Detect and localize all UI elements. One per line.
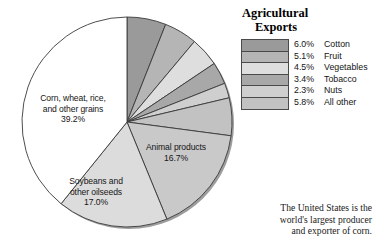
pie-label-grains-value: 39.2% [14, 114, 132, 125]
legend-title: Agricultural Exports [242, 6, 379, 34]
pie-label-soybeans: Soybeans and other oilseeds 17.0% [48, 176, 144, 208]
legend-row-text: 3.4%Tobacco [294, 74, 357, 86]
legend-row-text: 2.3%Nuts [294, 85, 342, 97]
legend-row-label: Cotton [324, 39, 350, 51]
legend-row: 4.5%Vegetables [242, 63, 288, 75]
legend-row-percent: 2.3% [294, 85, 324, 97]
legend-row-percent: 5.8% [294, 97, 324, 109]
pie-label-soybeans-line2: other oilseeds [48, 187, 144, 198]
legend-row-percent: 3.4% [294, 74, 324, 86]
pie-label-soybeans-line1: Soybeans and [48, 176, 144, 187]
infographic-page: Corn, wheat, rice, and other grains 39.2… [0, 0, 379, 245]
legend: Agricultural Exports 6.0%Cotton5.1%Fruit… [240, 6, 379, 110]
legend-swatch-list: 6.0%Cotton5.1%Fruit4.5%Vegetables3.4%Tob… [241, 39, 289, 110]
legend-row: 5.8%All other [242, 98, 288, 110]
legend-row: 6.0%Cotton [242, 40, 288, 52]
pie-label-grains: Corn, wheat, rice, and other grains 39.2… [14, 93, 132, 125]
caption-line2: world's largest producer [202, 214, 372, 226]
legend-row-text: 5.1%Fruit [294, 51, 342, 63]
caption-line1: The United States is the [202, 202, 372, 214]
legend-row-percent: 5.1% [294, 51, 324, 63]
pie-label-soybeans-value: 17.0% [48, 197, 144, 208]
legend-row-percent: 4.5% [294, 62, 324, 74]
pie-label-grains-line2: and other grains [14, 104, 132, 115]
legend-row-text: 6.0%Cotton [294, 39, 350, 51]
legend-row-label: Tobacco [324, 74, 357, 86]
pie-label-animal: Animal products 16.7% [128, 142, 224, 163]
pie-label-grains-line1: Corn, wheat, rice, [14, 93, 132, 104]
legend-row: 3.4%Tobacco [242, 75, 288, 87]
pie-label-animal-value: 16.7% [128, 153, 224, 164]
legend-row: 2.3%Nuts [242, 86, 288, 98]
legend-title-line2: Exports [242, 20, 379, 34]
legend-row-text: 5.8%All other [294, 97, 356, 109]
legend-row-percent: 6.0% [294, 39, 324, 51]
legend-row-label: Vegetables [324, 62, 368, 74]
caption: The United States is the world's largest… [202, 202, 372, 237]
caption-line3: and exporter of corn. [202, 225, 372, 237]
legend-row-label: Fruit [324, 51, 342, 63]
legend-row-label: Nuts [324, 85, 342, 97]
legend-row-label: All other [324, 97, 356, 109]
legend-row: 5.1%Fruit [242, 52, 288, 64]
legend-row-text: 4.5%Vegetables [294, 62, 368, 74]
legend-title-line1: Agricultural [242, 6, 308, 20]
pie-label-animal-line1: Animal products [128, 142, 224, 153]
